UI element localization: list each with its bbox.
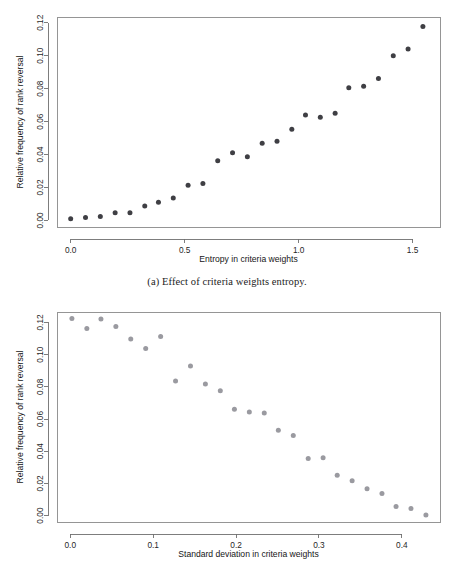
x-axis-tick-label: 1.5 <box>407 245 419 255</box>
data-point-series <box>68 24 425 221</box>
data-point <box>321 455 326 460</box>
data-point <box>333 111 338 116</box>
y-axis-tick-label: 0.10 <box>35 47 45 64</box>
data-point <box>260 141 265 146</box>
data-point <box>218 388 223 393</box>
y-axis-tick-label: 0.06 <box>35 113 45 130</box>
data-point <box>84 326 89 331</box>
data-point <box>230 150 235 155</box>
data-point <box>303 113 308 118</box>
data-point-series <box>69 316 428 517</box>
figure-caption-a: (a) Effect of criteria weights entropy. <box>0 276 454 287</box>
x-axis-title: Entropy in criteria weights <box>199 254 297 264</box>
y-axis-tick-label: 0.10 <box>35 346 45 363</box>
data-point <box>318 115 323 120</box>
scatter-plot-entropy: 0.00.51.01.50.000.020.040.060.080.100.12… <box>0 0 454 270</box>
data-point <box>420 24 425 29</box>
x-axis-tick-label: 0.0 <box>64 540 76 550</box>
data-point <box>391 53 396 58</box>
data-point <box>69 316 74 321</box>
data-point <box>361 84 366 89</box>
y-axis-tick-label: 0.00 <box>35 507 45 524</box>
data-point <box>68 216 73 221</box>
y-axis-title: Relative frequency of rank reversal <box>15 56 25 189</box>
data-point <box>406 46 411 51</box>
y-axis-tick-label: 0.08 <box>35 80 45 97</box>
data-point <box>113 210 118 215</box>
data-point <box>156 200 161 205</box>
data-point <box>423 512 428 517</box>
plot-frame <box>57 312 440 522</box>
data-point <box>289 127 294 132</box>
data-point <box>335 473 340 478</box>
data-point <box>127 210 132 215</box>
data-point <box>379 491 384 496</box>
scatter-plot-stddev: 0.00.10.20.30.40.000.020.040.060.080.100… <box>0 295 454 577</box>
data-point <box>247 410 252 415</box>
data-point <box>408 506 413 511</box>
y-axis-tick-label: 0.06 <box>35 411 45 428</box>
data-point <box>291 433 296 438</box>
y-axis-tick-label: 0.02 <box>35 179 45 196</box>
x-axis-tick-label: 0.5 <box>179 245 191 255</box>
data-point <box>143 346 148 351</box>
data-point <box>245 154 250 159</box>
data-point <box>186 183 191 188</box>
y-axis-tick-label: 0.08 <box>35 378 45 395</box>
data-point <box>276 428 281 433</box>
data-point <box>215 158 220 163</box>
data-point <box>158 334 163 339</box>
data-point <box>232 407 237 412</box>
x-axis-title: Standard deviation in criteria weights <box>178 549 318 559</box>
y-axis-title: Relative frequency of rank reversal <box>15 351 25 484</box>
x-axis-tick-label: 0.1 <box>147 540 159 550</box>
data-point <box>98 316 103 321</box>
data-point <box>142 204 147 209</box>
data-point <box>346 85 351 90</box>
data-point <box>200 181 205 186</box>
data-point <box>350 478 355 483</box>
data-point <box>394 504 399 509</box>
y-axis-tick-label: 0.12 <box>35 314 45 331</box>
data-point <box>376 76 381 81</box>
data-point <box>262 410 267 415</box>
y-axis-tick-label: 0.00 <box>35 212 45 229</box>
chart-panel-a: 0.00.51.01.50.000.020.040.060.080.100.12… <box>0 0 454 270</box>
data-point <box>173 379 178 384</box>
figure-container: 0.00.51.01.50.000.020.040.060.080.100.12… <box>0 0 454 577</box>
y-axis-tick-label: 0.04 <box>35 146 45 163</box>
data-point <box>171 196 176 201</box>
data-point <box>113 324 118 329</box>
data-point <box>128 337 133 342</box>
y-axis-tick-label: 0.04 <box>35 443 45 460</box>
y-axis-tick-label: 0.02 <box>35 475 45 492</box>
x-axis-tick-label: 0.4 <box>396 540 408 550</box>
plot-frame <box>57 17 440 227</box>
data-point <box>365 486 370 491</box>
y-axis-tick-label: 0.12 <box>35 14 45 31</box>
chart-panel-b: 0.00.10.20.30.40.000.020.040.060.080.100… <box>0 295 454 577</box>
x-axis-tick-label: 0.0 <box>65 245 77 255</box>
data-point <box>203 382 208 387</box>
data-point <box>275 139 280 144</box>
data-point <box>306 456 311 461</box>
data-point <box>83 215 88 220</box>
data-point <box>98 214 103 219</box>
data-point <box>188 364 193 369</box>
